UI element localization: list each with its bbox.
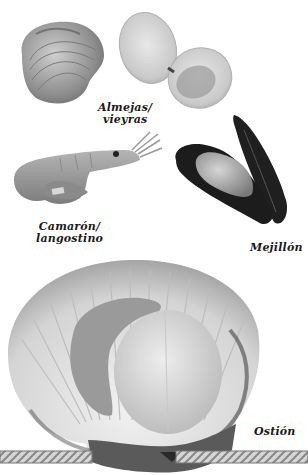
shrimp-label: Camarón/ langostino (36, 221, 103, 245)
mussel-label-text: Mejillón (250, 242, 303, 254)
shrimp-image (14, 132, 162, 204)
scallop-label-text: Ostión (254, 426, 296, 438)
closed-clam-image (22, 22, 104, 104)
seafood-illustration: Almejas/ vieyras Camarón/ langostino Mej… (0, 0, 308, 475)
shrimp-label-line2: langostino (36, 233, 103, 245)
mussel-image (175, 115, 287, 224)
clams-label: Almejas/ vieyras (98, 102, 152, 126)
clams-label-line2: vieyras (98, 114, 152, 126)
scallop-label: Ostión (254, 426, 296, 438)
scallop-image (8, 260, 259, 473)
mussel-label: Mejillón (250, 242, 303, 254)
